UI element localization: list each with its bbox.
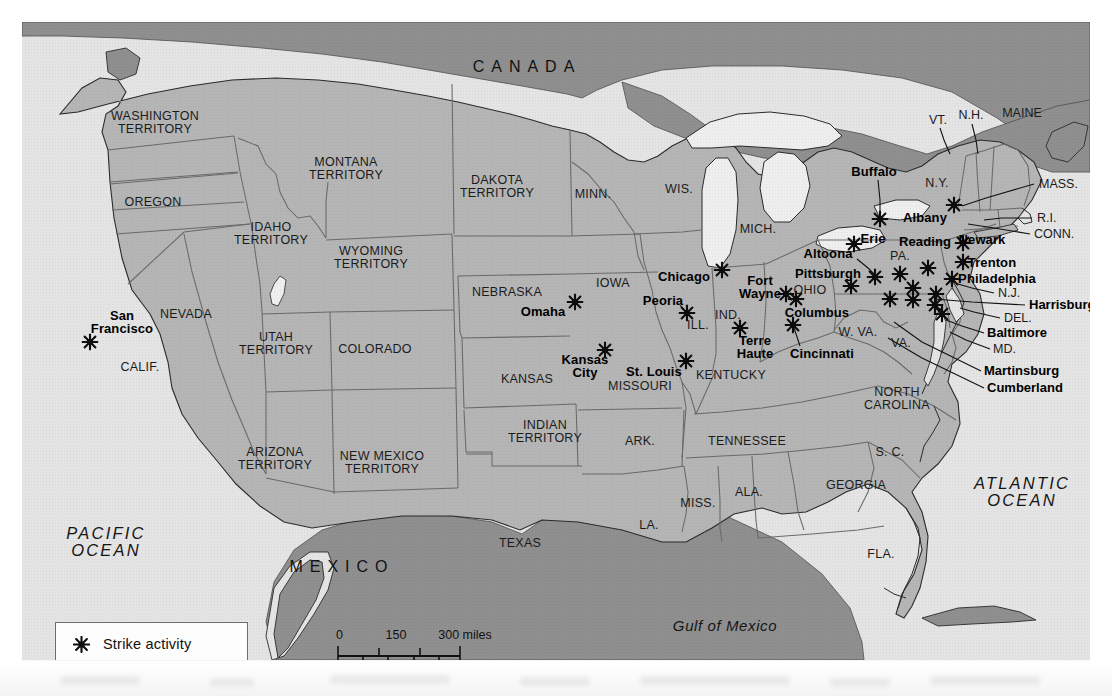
leader-md	[950, 332, 990, 349]
strike-marker-kansas-city[interactable]	[597, 342, 614, 359]
strike-marker-reading[interactable]	[920, 260, 937, 277]
leader-lines-layer	[22, 22, 1090, 660]
leader-ri	[984, 218, 1032, 220]
strike-marker-peoria[interactable]	[679, 305, 696, 322]
scale-miles-tick-300: 300 miles	[438, 628, 492, 642]
leader-martinsburg	[894, 322, 981, 371]
strike-marker-columbus[interactable]	[788, 291, 805, 308]
strike-marker-trenton[interactable]	[955, 254, 972, 271]
leader-vt	[940, 128, 950, 154]
strike-marker-25[interactable]	[934, 306, 951, 323]
map-legend[interactable]: Strike activity	[55, 622, 248, 660]
scale-bar-graphic	[332, 644, 500, 660]
scale-miles-tick-0: 0	[336, 628, 343, 642]
scan-edge-artifact	[0, 660, 1112, 696]
leader-nj	[958, 284, 994, 293]
leader-cumberland	[888, 338, 984, 388]
strike-activity-starburst-icon	[73, 636, 90, 653]
strike-marker-terre-haute[interactable]	[732, 320, 749, 337]
strike-marker-newark[interactable]	[955, 235, 972, 252]
leader-mass	[962, 184, 1034, 206]
strike-marker-altoona[interactable]	[867, 269, 884, 286]
legend-label: Strike activity	[103, 636, 191, 652]
strike-marker-san-francisco[interactable]	[82, 334, 99, 351]
strike-marker-albany[interactable]	[946, 197, 963, 214]
strike-marker-pittsburgh[interactable]	[843, 278, 860, 295]
strike-marker-chicago[interactable]	[714, 262, 731, 279]
leader-conn	[968, 224, 1030, 234]
strike-marker-philadelphia[interactable]	[944, 271, 961, 288]
map-canvas: CANADAMEXICOPACIFIC OCEANATLANTIC OCEANG…	[22, 22, 1090, 660]
strike-marker-omaha[interactable]	[567, 294, 584, 311]
scale-miles-tick-150: 150	[386, 628, 407, 642]
strike-marker-st-louis[interactable]	[678, 353, 695, 370]
scale-bar: 0 150 300 miles 0 150	[332, 628, 500, 660]
strike-marker-buffalo[interactable]	[872, 211, 889, 228]
scale-miles-row: 0 150 300 miles	[332, 628, 500, 642]
leader-del	[960, 308, 1000, 318]
strike-marker-21[interactable]	[882, 291, 899, 308]
leader-nh	[972, 124, 978, 154]
leader-baltimore	[946, 320, 984, 333]
map-page: CANADAMEXICOPACIFIC OCEANATLANTIC OCEANG…	[0, 0, 1112, 696]
strike-marker-22[interactable]	[905, 292, 922, 309]
strike-marker-cincinnati[interactable]	[785, 317, 802, 334]
leader-buffalo	[878, 180, 880, 214]
leader-harrisburg	[934, 299, 1025, 305]
strike-marker-erie[interactable]	[846, 236, 863, 253]
